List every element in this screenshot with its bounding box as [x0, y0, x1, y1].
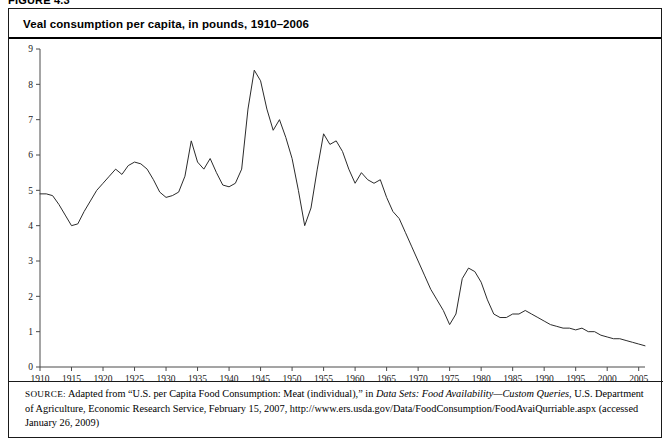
- chart-title-bar: Veal consumption per capita, in pounds, …: [9, 9, 661, 39]
- figure-container: Veal consumption per capita, in pounds, …: [8, 8, 662, 438]
- chart-plot-area: 0123456789191019151920192519301935194019…: [9, 39, 663, 397]
- y-tick-label: 8: [28, 80, 33, 90]
- y-tick-label: 6: [28, 150, 33, 160]
- chart-axes: [40, 49, 645, 367]
- source-note: SOURCE: Adapted from “U.S. per Capita Fo…: [9, 381, 663, 437]
- source-label: SOURCE:: [25, 389, 66, 399]
- y-tick-label: 5: [28, 186, 33, 196]
- y-tick-label: 4: [28, 221, 33, 231]
- y-tick-label: 7: [28, 115, 33, 125]
- source-text-part1: Adapted from “U.S. per Capita Food Consu…: [66, 388, 376, 399]
- figure-label: FIGURE 4.3: [8, 0, 70, 6]
- y-tick-label: 9: [28, 44, 33, 54]
- y-tick-label: 1: [28, 327, 33, 337]
- y-tick-label: 3: [28, 256, 33, 266]
- y-tick-label: 2: [28, 292, 33, 302]
- data-series-line: [40, 70, 645, 346]
- chart-title: Veal consumption per capita, in pounds, …: [23, 18, 647, 30]
- y-tick-label: 0: [28, 362, 33, 372]
- line-chart: 0123456789191019151920192519301935194019…: [9, 39, 663, 397]
- source-italic-title: Data Sets: Food Availability—Custom Quer…: [376, 388, 572, 399]
